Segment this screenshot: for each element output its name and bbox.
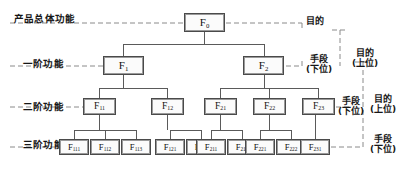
tier-label-root: 产品总体功能: [14, 11, 75, 25]
node-f112[interactable]: F112: [90, 139, 120, 155]
node-base: F: [309, 142, 314, 152]
node-sub: 113: [135, 146, 143, 152]
annotation-line1: 目的: [374, 94, 392, 104]
node-f231[interactable]: F231: [300, 139, 330, 155]
node-f211[interactable]: F211: [196, 139, 226, 155]
node-f11[interactable]: F11: [83, 98, 116, 115]
node-f1[interactable]: F1: [103, 56, 144, 75]
node-f21[interactable]: F21: [204, 98, 237, 115]
annotation-means-f23: 手段 (下位): [338, 96, 364, 117]
node-f12[interactable]: F12: [151, 98, 184, 115]
annotation-purpose-upper: 目的 (上位): [352, 48, 378, 69]
node-sub: 111: [73, 146, 80, 152]
annotation-purpose-root: 目的: [306, 16, 324, 26]
tier-label-three: 三阶功能: [23, 137, 64, 151]
annotation-line1: 目的: [306, 16, 324, 26]
annotation-purpose-upper-right: 目的 (上位): [370, 94, 396, 115]
node-sub: 23: [318, 105, 324, 111]
node-f23[interactable]: F23: [302, 98, 335, 115]
node-sub: 21: [220, 105, 226, 111]
node-sub: 211: [210, 146, 218, 152]
node-sub: 231: [314, 146, 322, 152]
tier-label-one: 一阶功能: [23, 56, 64, 70]
node-sub: 0: [206, 22, 209, 29]
node-sub: 11: [99, 105, 104, 111]
node-base: F: [205, 142, 210, 152]
node-f121[interactable]: F121: [155, 139, 185, 155]
annotation-line1: 手段: [342, 96, 360, 106]
node-sub: 121: [169, 146, 177, 152]
annotation-line1: 手段: [310, 54, 328, 64]
node-sub: 112: [104, 146, 112, 152]
function-decomposition-diagram: 产品总体功能 一阶功能 二阶功能 三阶功能 F0 F1 F2 F11 F12 F…: [0, 0, 413, 177]
node-base: F: [236, 142, 241, 152]
annotation-line1: 目的: [356, 48, 374, 58]
tier-label-two: 二阶功能: [23, 99, 64, 113]
node-f22[interactable]: F22: [253, 98, 286, 115]
annotation-means-lower-right: 手段 (下位): [370, 134, 396, 155]
annotation-means-tier1: 手段 (下位): [306, 54, 332, 75]
node-base: F: [99, 142, 104, 152]
node-sub: 2: [265, 65, 268, 72]
node-base: F: [164, 142, 169, 152]
node-base: F: [119, 59, 125, 71]
node-base: F: [259, 59, 265, 71]
node-f113[interactable]: F113: [121, 139, 151, 155]
node-base: F: [285, 142, 290, 152]
node-sub: 12: [167, 105, 173, 111]
node-f2[interactable]: F2: [243, 56, 284, 75]
node-f221[interactable]: F221: [245, 139, 275, 155]
annotation-line2: (上位): [352, 58, 378, 68]
node-sub: 1: [125, 65, 128, 72]
node-base: F: [130, 142, 135, 152]
node-f111[interactable]: F111: [59, 139, 89, 155]
node-f0[interactable]: F0: [184, 13, 225, 32]
node-sub: 221: [259, 146, 267, 152]
annotation-line2: (下位): [338, 106, 364, 116]
annotation-line2: (上位): [370, 104, 396, 114]
annotation-line2: (下位): [370, 144, 396, 154]
node-base: F: [200, 16, 206, 28]
node-base: F: [254, 142, 259, 152]
node-sub: 222: [290, 146, 298, 152]
annotation-line2: (下位): [306, 64, 332, 74]
node-sub: 22: [269, 105, 275, 111]
annotation-line1: 手段: [374, 134, 392, 144]
